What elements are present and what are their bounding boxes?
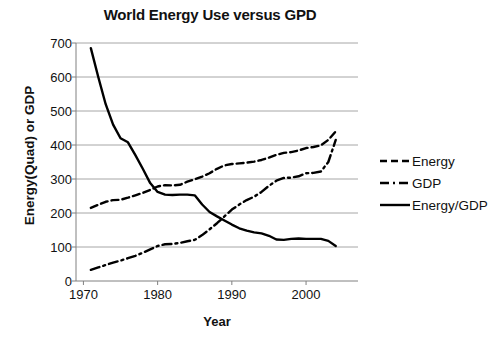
legend-item[interactable]: GDP [380, 172, 503, 194]
series-line-gdp [91, 140, 336, 270]
series-line-energy-gdp [91, 48, 336, 246]
legend-label: GDP [412, 176, 441, 191]
legend-label: Energy [412, 154, 455, 169]
y-tick-label: 500 [34, 104, 72, 119]
x-tick-label: 1990 [204, 287, 260, 302]
legend-swatch-dash-dot-icon [380, 177, 410, 189]
y-tick-label: 100 [34, 240, 72, 255]
x-tick-label: 1970 [55, 287, 111, 302]
y-tick-label: 300 [34, 172, 72, 187]
y-tick-label: 600 [34, 70, 72, 85]
legend-swatch-solid-icon [380, 199, 410, 211]
legend-item[interactable]: Energy [380, 150, 503, 172]
legend-swatch-dashed-icon [380, 155, 410, 167]
legend-item[interactable]: Energy/GDP [380, 194, 503, 216]
y-tick-label: 400 [34, 138, 72, 153]
x-axis-label: Year [76, 314, 358, 329]
chart-legend: EnergyGDPEnergy/GDP [380, 150, 503, 216]
y-tick-label: 200 [34, 206, 72, 221]
x-tick-label: 2000 [278, 287, 334, 302]
legend-label: Energy/GDP [412, 198, 488, 213]
chart-figure: World Energy Use versus GPD Energy(Quad)… [0, 0, 503, 341]
x-tick-label: 1980 [130, 287, 186, 302]
y-tick-label: 700 [34, 36, 72, 51]
